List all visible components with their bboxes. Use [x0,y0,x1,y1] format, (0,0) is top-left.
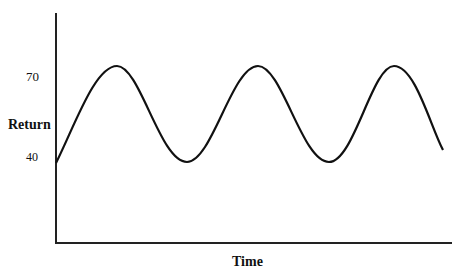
y-axis-label: Return [8,117,51,133]
chart-canvas [0,0,468,275]
y-tick-70: 70 [26,69,39,85]
y-tick-40: 40 [26,150,38,165]
return-line [56,66,443,163]
x-axis-label: Time [232,254,263,270]
